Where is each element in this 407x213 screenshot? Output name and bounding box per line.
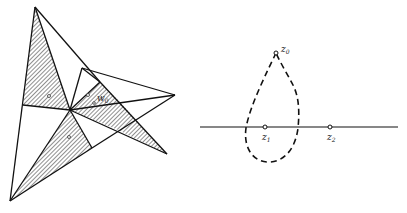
point-z0 (274, 51, 278, 55)
left-figure: w0 (10, 7, 175, 201)
hatched-region-top (23, 7, 70, 110)
dashed-loop (246, 53, 299, 162)
right-figure: z0 z1 z2 (200, 44, 398, 162)
point-z1 (263, 125, 267, 129)
point-z2 (328, 125, 332, 129)
label-z1: z1 (261, 132, 271, 143)
label-z2: z2 (326, 132, 336, 143)
diagram-canvas: w0 z0 z1 z2 (0, 0, 407, 213)
label-z0: z0 (280, 44, 290, 55)
